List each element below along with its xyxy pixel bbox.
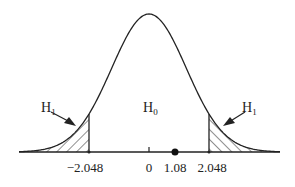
- right-critical-point: [208, 151, 211, 154]
- arrow-left-icon: [51, 112, 76, 126]
- left-critical-point: [88, 151, 91, 154]
- tick-label-neg-critical: −2.048: [67, 160, 104, 175]
- test-statistic-dot: [172, 149, 179, 156]
- tick-label-zero: 0: [146, 160, 153, 175]
- arrow-right-icon: [223, 112, 245, 126]
- tick-label-pos-critical: 2.048: [197, 160, 226, 175]
- label-h1-right: H1: [242, 100, 257, 117]
- tick-label-test-stat: 1.08: [164, 160, 187, 175]
- label-h0: H0: [143, 100, 158, 117]
- label-h1-left: H1: [41, 100, 56, 117]
- distribution-curve: [19, 14, 280, 152]
- t-distribution-diagram: −2.048 0 1.08 2.048 H1 H0 H1: [0, 0, 295, 187]
